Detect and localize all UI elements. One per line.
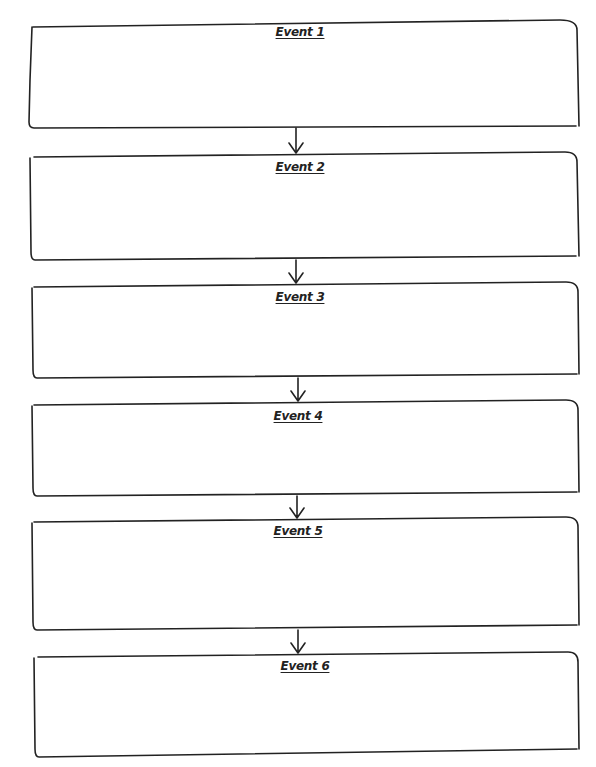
event-2-title: Event 2 xyxy=(276,160,325,174)
event-chain-diagram xyxy=(0,0,596,767)
arrow-3-icon xyxy=(291,378,305,401)
event-5-title: Event 5 xyxy=(274,524,323,538)
event-4-title: Event 4 xyxy=(274,409,323,423)
event-6-title: Event 6 xyxy=(281,659,330,673)
arrow-1-icon xyxy=(289,128,303,153)
event-3-title: Event 3 xyxy=(276,290,325,304)
arrow-5-icon xyxy=(291,630,305,653)
event-1-title: Event 1 xyxy=(276,25,325,39)
arrow-4-icon xyxy=(290,496,304,518)
arrow-2-icon xyxy=(289,260,303,283)
